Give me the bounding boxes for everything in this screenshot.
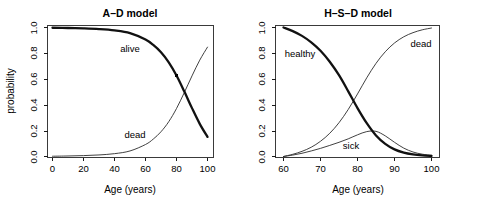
y-tick-label: 0.0 <box>28 150 39 163</box>
curve-healthy-right <box>284 28 432 156</box>
curve-label-healthy-right: healthy <box>285 48 316 59</box>
x-tick-label: 20 <box>78 163 89 174</box>
x-axis-label-left: Age (years) <box>104 184 156 195</box>
x-tick-label: 80 <box>352 163 363 174</box>
panel-title-right: H–S–D model <box>324 7 392 19</box>
y-tick-label: 0.2 <box>28 124 39 137</box>
y-tick-label: 1.0 <box>28 21 39 34</box>
y-axis-ticks-right <box>272 28 276 157</box>
curve-label-dead-left: dead <box>124 129 145 140</box>
alive-data-marker <box>175 74 178 77</box>
y-tick-label: 0.4 <box>256 98 267 111</box>
y-tick-label: 1.0 <box>256 21 267 34</box>
x-axis-ticks-right <box>284 158 432 162</box>
x-tick-label: 90 <box>389 163 400 174</box>
y-axis-tick-labels-left: 0.0 0.2 0.4 0.6 0.8 1.0 <box>28 21 39 163</box>
curve-label-dead-right: dead <box>410 38 431 49</box>
y-tick-label: 0.0 <box>256 150 267 163</box>
y-tick-label: 0.8 <box>28 46 39 59</box>
chart-svg-right: H–S–D model 0.0 0.2 0.4 0.6 0.8 1.0 <box>243 0 487 206</box>
chart-panel-right: H–S–D model 0.0 0.2 0.4 0.6 0.8 1.0 <box>243 0 487 206</box>
x-tick-label: 80 <box>171 163 182 174</box>
figure-container: A–D model 0.0 0.2 0.4 0.6 0.8 1.0 <box>0 0 487 206</box>
y-axis-tick-labels-right: 0.0 0.2 0.4 0.6 0.8 1.0 <box>256 21 267 163</box>
chart-panel-left: A–D model 0.0 0.2 0.4 0.6 0.8 1.0 <box>0 0 244 206</box>
x-tick-label: 100 <box>424 163 440 174</box>
panel-title-left: A–D model <box>103 7 158 19</box>
x-axis-ticks-left <box>53 158 208 162</box>
x-tick-label: 60 <box>140 163 151 174</box>
y-axis-ticks-left <box>44 28 48 157</box>
y-axis-label-left: probability <box>5 68 16 114</box>
x-axis-tick-labels-left: 0 20 40 60 80 100 <box>50 163 216 174</box>
y-tick-label: 0.2 <box>256 124 267 137</box>
x-axis-tick-labels-right: 60 70 80 90 100 <box>278 163 439 174</box>
x-axis-label-right: Age (years) <box>332 184 384 195</box>
y-tick-label: 0.8 <box>256 46 267 59</box>
x-tick-label: 100 <box>200 163 216 174</box>
curve-label-alive-left: alive <box>120 43 140 54</box>
x-tick-label: 70 <box>315 163 326 174</box>
x-tick-label: 60 <box>278 163 289 174</box>
curve-label-sick-right: sick <box>343 140 360 151</box>
y-tick-label: 0.6 <box>256 72 267 85</box>
x-tick-label: 0 <box>50 163 55 174</box>
y-tick-label: 0.6 <box>28 72 39 85</box>
x-tick-label: 40 <box>109 163 120 174</box>
y-tick-label: 0.4 <box>28 98 39 111</box>
chart-svg-left: A–D model 0.0 0.2 0.4 0.6 0.8 1.0 <box>0 0 244 206</box>
